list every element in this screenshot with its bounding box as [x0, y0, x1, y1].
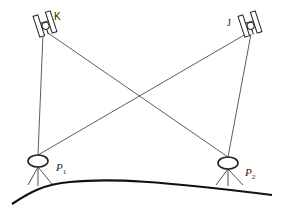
ray-k-p1	[38, 34, 43, 155]
ground-line	[12, 180, 272, 204]
diagram-svg: K J P1 P2	[0, 0, 285, 217]
rays	[38, 33, 251, 157]
ray-k-p2	[48, 33, 228, 157]
label-p1: P1	[55, 161, 67, 176]
label-p2: P2	[244, 166, 256, 181]
label-k: K	[54, 11, 61, 22]
camera-j-icon	[238, 11, 262, 37]
diagram-canvas: K J P1 P2	[0, 0, 285, 217]
ray-j-p1	[38, 34, 246, 155]
ray-j-p2	[228, 34, 251, 157]
target-p1-icon	[28, 155, 52, 186]
target-p2-icon	[216, 157, 243, 186]
label-j: J	[227, 17, 231, 28]
